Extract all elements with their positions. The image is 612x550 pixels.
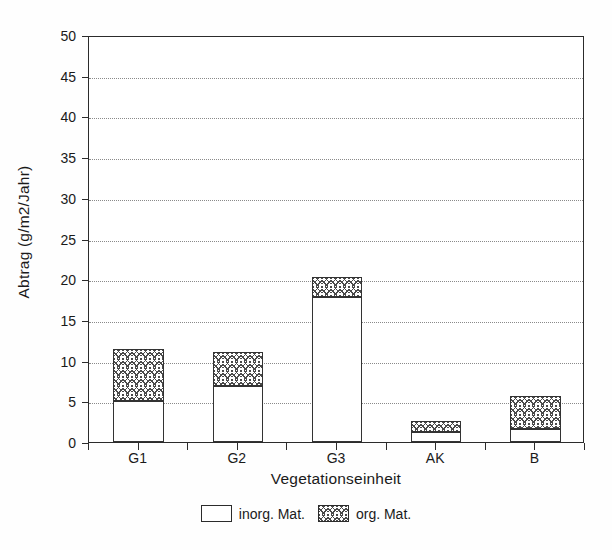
legend-swatch-org [318,505,349,522]
plot-area [88,36,584,443]
y-axis-tick-label: 25 [28,233,82,247]
legend-entry[interactable]: org. Mat. [318,505,411,522]
legend-label: org. Mat. [356,506,411,522]
x-axis-tick-mark [485,443,486,450]
y-axis-tick-label: 30 [28,192,82,206]
chart-figure: Abtrag (g/m2/Jahr) 05101520253035404550 … [0,0,612,550]
x-axis-tick-mark [336,443,337,450]
bar-segment-org[interactable] [113,349,164,401]
y-axis-tick-labels: 05101520253035404550 [28,0,82,550]
bar-segment-inorg[interactable] [312,297,363,442]
x-axis-tick-mark [237,443,238,450]
bar-group[interactable] [411,35,462,442]
y-axis-tick-label: 15 [28,314,82,328]
y-axis-tick-label: 35 [28,151,82,165]
x-axis-tick-mark [88,443,89,450]
x-axis-title: Vegetationseinheit [88,470,584,488]
bar-segment-org[interactable] [312,277,363,297]
x-axis-tick-label: AK [426,450,445,466]
chart-legend: inorg. Mat.org. Mat. [0,505,612,522]
bar-group[interactable] [510,35,561,442]
x-axis-tick-mark [435,443,436,450]
legend-entry[interactable]: inorg. Mat. [201,505,305,522]
y-axis-tick-label: 45 [28,70,82,84]
bar-segment-inorg[interactable] [113,401,164,442]
bar-group[interactable] [312,35,363,442]
legend-label: inorg. Mat. [239,506,305,522]
y-axis-tick-label: 0 [28,436,82,450]
x-axis-tick-labels: G1G2G3AKB [88,450,584,472]
bar-segment-org[interactable] [411,421,462,432]
x-axis-tick-label: B [530,450,539,466]
x-axis-tick-mark [584,443,585,450]
x-axis-tick-mark [534,443,535,450]
x-axis-tick-mark [138,443,139,450]
x-axis-tick-label: G1 [128,450,147,466]
y-axis-tick-label: 40 [28,110,82,124]
x-axis-tick-label: G3 [327,450,346,466]
bar-group[interactable] [113,35,164,442]
x-axis-tick-mark [286,443,287,450]
bar-group[interactable] [213,35,264,442]
bar-segment-inorg[interactable] [510,429,561,442]
x-axis-tick-label: G2 [227,450,246,466]
bar-segment-org[interactable] [213,352,264,386]
x-axis-tick-mark [187,443,188,450]
bar-segment-inorg[interactable] [411,432,462,442]
x-axis-tick-mark [386,443,387,450]
legend-swatch-inorg [201,505,232,522]
y-axis-tick-label: 5 [28,395,82,409]
bar-segment-inorg[interactable] [213,386,264,442]
bar-segment-org[interactable] [510,396,561,429]
y-axis-tick-label: 50 [28,29,82,43]
y-axis-tick-label: 20 [28,273,82,287]
y-axis-tick-label: 10 [28,355,82,369]
